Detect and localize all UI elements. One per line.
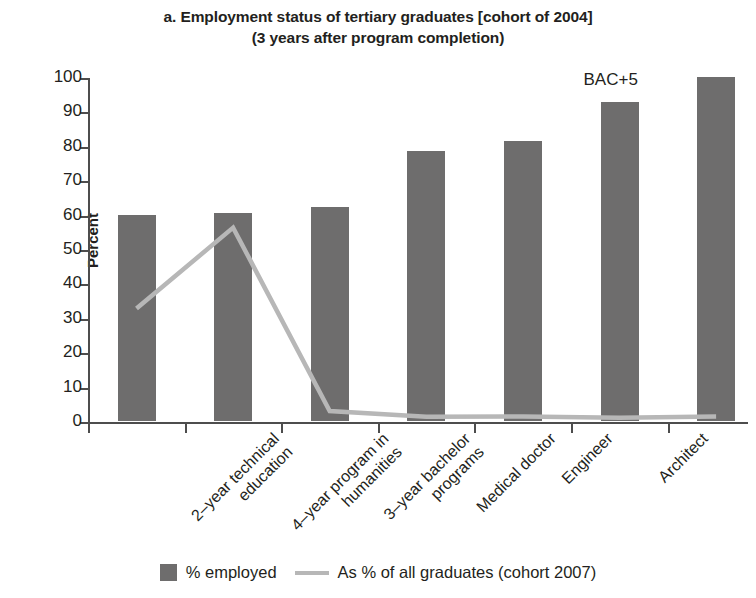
y-tick-label: 60 [63, 205, 82, 225]
legend-item-employed: % employed [160, 563, 277, 582]
chart-figure: a. Employment status of tertiary graduat… [0, 0, 756, 598]
chart-title: a. Employment status of tertiary graduat… [0, 6, 756, 27]
x-axis-labels: 2–year technicaleducation4–year program … [88, 423, 756, 543]
legend-label-all-graduates: As % of all graduates (cohort 2007) [338, 563, 597, 582]
x-axis-label: 2–year technicaleducation [187, 429, 296, 538]
y-tick-label: 0 [73, 411, 82, 431]
legend-item-all-graduates: As % of all graduates (cohort 2007) [295, 563, 597, 582]
x-axis-label: Medical doctor [473, 429, 560, 516]
y-tick-label: 80 [63, 136, 82, 156]
x-axis-label: Engineer [558, 429, 617, 488]
annotation-label: BAC+5 [584, 70, 638, 90]
x-axis-label-line: Engineer [558, 429, 617, 488]
x-axis-label-line: Medical doctor [473, 429, 560, 516]
x-axis-label: 4–year program inhumanities [287, 429, 406, 548]
legend-square-icon [160, 564, 177, 581]
y-tick-label: 70 [63, 170, 82, 190]
chart-subtitle: (3 years after program completion) [0, 27, 756, 48]
y-tick-label: 50 [63, 239, 82, 259]
legend-label-employed: % employed [186, 563, 277, 582]
x-axis-label: Architect [654, 429, 711, 486]
y-tick-label: 100 [54, 67, 82, 87]
y-tick-label: 10 [63, 377, 82, 397]
chart-legend: % employed As % of all graduates (cohort… [0, 563, 756, 582]
plot-area: Percent 0102030405060708090100 BAC+5 [88, 78, 748, 423]
y-tick-label: 30 [63, 308, 82, 328]
line-series [88, 78, 748, 424]
chart-title-block: a. Employment status of tertiary graduat… [0, 6, 756, 48]
legend-line-icon [295, 571, 329, 575]
y-tick-label: 90 [63, 101, 82, 121]
y-tick-label: 40 [63, 273, 82, 293]
x-axis-label-line: Architect [654, 429, 711, 486]
y-tick-label: 20 [63, 342, 82, 362]
